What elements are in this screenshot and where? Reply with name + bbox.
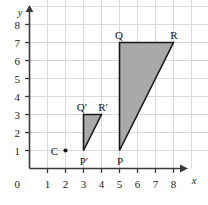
y-tick-label-7: 7 xyxy=(15,37,21,49)
y-tick-label-8: 8 xyxy=(15,19,21,31)
vertex-label-r: R xyxy=(170,29,178,41)
x-tick-label-7: 7 xyxy=(153,178,159,190)
vertex-label-p: P xyxy=(117,155,123,167)
plot-svg: 1 2 3 4 5 6 7 8 1 2 3 4 5 6 7 8 0 y x C xyxy=(0,0,208,205)
x-tick-label-6: 6 xyxy=(135,178,141,190)
y-tick-label-3: 3 xyxy=(15,109,21,121)
x-axis-name-label: x xyxy=(191,175,197,186)
y-tick-label-5: 5 xyxy=(15,73,21,85)
vertex-label-p-prime: P′ xyxy=(80,155,89,167)
x-tick-label-1: 1 xyxy=(45,178,51,190)
origin-label: 0 xyxy=(15,178,21,190)
vertex-label-r-prime: R′ xyxy=(98,101,108,113)
vertex-label-q-prime: Q′ xyxy=(77,101,87,113)
coordinate-plane-figure: 1 2 3 4 5 6 7 8 1 2 3 4 5 6 7 8 0 y x C xyxy=(0,0,208,205)
x-tick-label-3: 3 xyxy=(81,178,87,190)
y-tick-label-2: 2 xyxy=(15,127,21,139)
point-c-marker-icon xyxy=(63,148,67,152)
y-tick-label-1: 1 xyxy=(15,145,21,157)
point-c-label: C xyxy=(51,145,58,157)
x-axis-arrow-icon xyxy=(180,165,188,173)
y-tick-label-4: 4 xyxy=(15,91,21,103)
y-axis-name-label: y xyxy=(17,7,23,18)
y-tick-labels: 1 2 3 4 5 6 7 8 xyxy=(15,19,21,157)
x-tick-label-4: 4 xyxy=(99,178,105,190)
x-tick-labels: 1 2 3 4 5 6 7 8 xyxy=(45,178,177,190)
x-tick-label-8: 8 xyxy=(171,178,177,190)
y-tick-label-6: 6 xyxy=(15,55,21,67)
x-tick-label-2: 2 xyxy=(63,178,69,190)
vertex-label-q: Q xyxy=(115,29,123,41)
x-tick-label-5: 5 xyxy=(117,178,123,190)
